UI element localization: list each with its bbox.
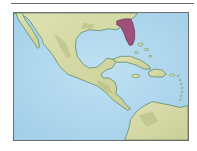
map-svg: [14, 13, 188, 140]
jamaica: [132, 74, 140, 78]
top-divider-line: [11, 3, 194, 4]
map-frame: [13, 12, 189, 141]
